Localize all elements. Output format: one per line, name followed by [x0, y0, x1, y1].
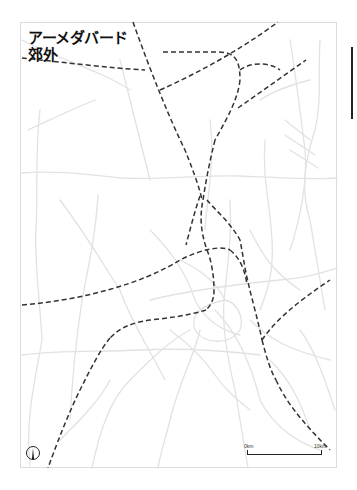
- map-canvas: [0, 0, 357, 490]
- scale-line: [247, 454, 321, 455]
- north-needle: [32, 448, 34, 459]
- scale-tick-end: [321, 450, 322, 455]
- scale-start-label: 0km: [244, 443, 253, 449]
- scale-bar: 0km 10km: [244, 443, 324, 461]
- map-title-line1: アーメダバード: [28, 30, 128, 47]
- scale-end-label: 10km: [314, 443, 326, 449]
- map-title-line2: 郊外: [28, 47, 128, 64]
- map-title: アーメダバード 郊外: [28, 30, 128, 64]
- north-arrow-icon: [26, 446, 40, 460]
- page-edge-bar: [351, 47, 353, 119]
